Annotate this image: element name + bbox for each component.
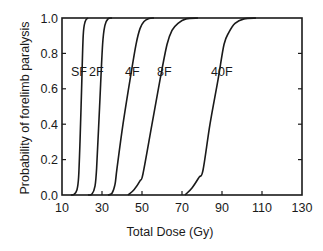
x-tick-label: 110: [252, 201, 272, 215]
series-labels: SF2F4F8F40F: [71, 65, 233, 79]
series-label-8f: 8F: [157, 65, 172, 79]
plot-frame: [62, 18, 302, 195]
dose-response-chart: 1030507090110130 0.00.20.40.60.81.0 SF2F…: [0, 0, 323, 251]
y-tick-labels: 0.00.20.40.60.81.0: [41, 12, 58, 203]
x-tick-label: 130: [292, 201, 313, 215]
y-tick-label: 0.4: [41, 118, 58, 132]
y-tick-label: 0.0: [41, 189, 58, 203]
x-tick-label: 50: [135, 201, 149, 215]
x-tick-labels: 1030507090110130: [55, 201, 312, 215]
curve-8f: [128, 18, 198, 195]
series-curves: [71, 18, 256, 195]
curve-40f: [185, 18, 256, 195]
curve-sf: [71, 18, 88, 195]
x-axis-label: Total Dose (Gy): [127, 225, 214, 239]
y-tick-label: 0.2: [41, 153, 58, 167]
series-label-sf: SF: [71, 65, 87, 79]
y-axis-label: Probability of forelimb paralysis: [18, 22, 32, 195]
x-tick-label: 70: [175, 201, 189, 215]
series-label-40f: 40F: [211, 65, 233, 79]
x-tick-label: 30: [95, 201, 109, 215]
x-tick-label: 10: [55, 201, 69, 215]
plot-border: [62, 18, 302, 195]
y-tick-label: 0.8: [41, 47, 58, 61]
curve-2f: [88, 18, 112, 195]
y-tick-label: 0.6: [41, 82, 58, 96]
x-tick-label: 90: [215, 201, 229, 215]
curve-4f: [108, 18, 154, 195]
y-tick-label: 1.0: [41, 12, 58, 26]
series-label-4f: 4F: [125, 65, 140, 79]
series-label-2f: 2F: [89, 65, 104, 79]
